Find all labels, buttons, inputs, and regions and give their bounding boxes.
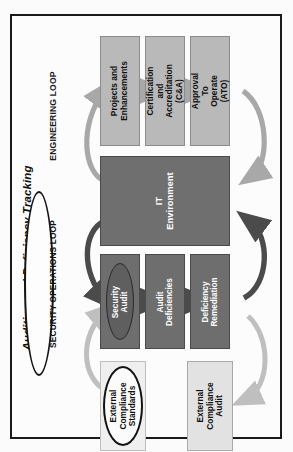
- node-external-compliance-standards[interactable]: External Compliance Standards: [100, 361, 146, 451]
- node-external-compliance-standards-label: External Compliance Standards: [109, 382, 138, 429]
- node-audit-deficiencies-label: Audit Deficiencies: [156, 278, 175, 326]
- node-approval-to-operate[interactable]: Approval To Operate (ATO): [190, 36, 230, 146]
- node-external-compliance-audit[interactable]: External Compliance Audit: [187, 361, 233, 451]
- node-certification-label: Certification and Accreditation (C&A): [146, 64, 185, 118]
- engineering-loop-label: ENGINEERING LOOP: [46, 61, 62, 171]
- node-external-compliance-audit-label: External Compliance Audit: [196, 382, 225, 429]
- node-projects-and-enhancements[interactable]: Projects and Enhancements: [100, 36, 140, 146]
- diagram-page: Auditing and Deficiency Tracking Process…: [0, 0, 293, 452]
- diagram-frame: Auditing and Deficiency Tracking Process…: [10, 14, 282, 439]
- connector-approval-to-it-environment: [243, 91, 264, 176]
- node-deficiency-remediation[interactable]: Deficiency Remediation: [190, 254, 230, 349]
- connector-remediation-to-external-audit: [246, 316, 265, 399]
- node-audit-deficiencies[interactable]: Audit Deficiencies: [145, 254, 185, 349]
- node-security-audit-label: Security Audit: [111, 285, 130, 317]
- node-approval-label: Approval To Operate (ATO): [191, 73, 230, 109]
- node-it-environment-label: IT Environment: [154, 172, 176, 229]
- node-certification-and-accreditation[interactable]: Certification and Accreditation (C&A): [145, 36, 185, 146]
- connector-remediation-to-it-environment: [244, 221, 264, 298]
- security-operations-loop-label: SECURITY OPERATIONS LOOP: [46, 207, 62, 362]
- node-projects-label: Projects and Enhancements: [110, 61, 129, 121]
- node-it-environment[interactable]: IT Environment: [100, 156, 230, 246]
- node-security-audit[interactable]: Security Audit: [100, 254, 140, 349]
- node-deficiency-remediation-label: Deficiency Remediation: [201, 277, 220, 326]
